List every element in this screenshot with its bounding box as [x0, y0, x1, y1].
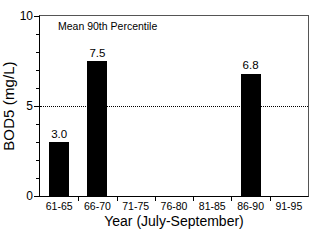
y-tick-minor	[36, 160, 40, 161]
y-tick-major	[34, 16, 40, 17]
x-tick-label: 61-65	[46, 201, 73, 212]
plot-area: Mean 90th Percentile 3.07.56.8 0510 61-6…	[39, 15, 309, 197]
bar-value-label: 7.5	[89, 48, 105, 60]
bar-value-label: 3.0	[51, 129, 67, 141]
y-tick-minor	[36, 124, 40, 125]
y-tick-minor	[36, 88, 40, 89]
y-tick-label: 10	[20, 10, 33, 22]
chart-figure: BOD5 (mg/L) Mean 90th Percentile 3.07.56…	[0, 0, 316, 235]
y-tick-major	[34, 196, 40, 197]
x-tick-label: 86-90	[237, 201, 264, 212]
x-tick-label: 76-80	[161, 201, 188, 212]
y-tick-minor	[36, 34, 40, 35]
y-tick-minor	[36, 70, 40, 71]
x-tick	[155, 196, 156, 201]
x-tick-label: 66-70	[84, 201, 111, 212]
x-tick	[193, 196, 194, 201]
x-tick	[231, 196, 232, 201]
x-tick	[270, 196, 271, 201]
bar-value-label: 6.8	[243, 60, 259, 72]
y-axis-title: BOD5 (mg/L)	[0, 15, 16, 197]
threshold-reference-line	[40, 106, 308, 107]
x-tick	[117, 196, 118, 201]
y-tick-minor	[36, 142, 40, 143]
y-tick-minor	[36, 178, 40, 179]
y-tick-minor	[36, 52, 40, 53]
y-tick-label: 0	[26, 190, 33, 202]
x-tick-label: 71-75	[122, 201, 149, 212]
y-tick-label: 5	[26, 100, 33, 112]
x-tick-label: 81-85	[199, 201, 226, 212]
chart-annotation: Mean 90th Percentile	[58, 21, 157, 32]
bar: 6.8	[241, 74, 261, 196]
bar: 7.5	[87, 61, 107, 196]
x-tick-label: 91-95	[275, 201, 302, 212]
x-axis-title: Year (July-September)	[39, 214, 309, 228]
x-tick	[78, 196, 79, 201]
y-tick-major	[34, 106, 40, 107]
bar: 3.0	[49, 142, 69, 196]
